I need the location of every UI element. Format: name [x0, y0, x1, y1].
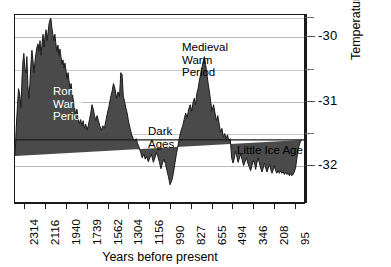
x-tick-label-208: 208 — [278, 226, 290, 246]
annotation-little-ice-age: Little Ice Age — [237, 144, 303, 157]
roman-warm-period-line: Roman — [53, 85, 90, 98]
little-ice-age-line: Little Ice Age — [237, 144, 303, 157]
dark-ages-line: Ages — [148, 138, 174, 151]
x-tick-346 — [253, 203, 254, 209]
x-tick-990 — [170, 203, 171, 209]
x-tick-1304 — [128, 203, 129, 209]
x-tick-label-1562: 1562 — [112, 219, 124, 245]
x-tick-label-990: 990 — [174, 226, 186, 246]
y-tick--31 — [305, 101, 315, 102]
medieval-warm-period-line: Period — [182, 66, 228, 79]
x-tick-208 — [274, 203, 275, 209]
x-tick-95 — [295, 203, 296, 209]
x-tick-label-1156: 1156 — [153, 220, 165, 245]
medieval-warm-period-line: Medieval — [182, 41, 228, 54]
x-tick-494 — [232, 203, 233, 209]
x-tick-1940 — [66, 203, 67, 209]
x-tick-label-2314: 2314 — [28, 219, 40, 245]
x-tick-label-346: 346 — [257, 226, 269, 246]
x-tick-827 — [191, 203, 192, 209]
y-tick--32 — [305, 165, 315, 166]
x-axis-title: Years before present — [0, 250, 320, 264]
dark-ages-line: Dark — [148, 125, 174, 138]
roman-warm-period-line: Warm — [53, 98, 90, 111]
y-tick-label--32: -32 — [318, 158, 337, 171]
y-tick--30 — [305, 36, 315, 37]
y-tick — [305, 133, 314, 134]
y-axis-title: Temperature C — [349, 0, 363, 60]
annotation-roman-warm-period: RomanWarmPeriod — [53, 85, 90, 123]
annotation-medieval-warm-period: MedievalWarmPeriod — [182, 41, 228, 79]
roman-warm-period-line: Period — [53, 110, 90, 123]
y-tick — [305, 69, 314, 70]
x-tick-label-827: 827 — [195, 226, 207, 246]
y-tick — [305, 17, 314, 18]
x-tick-1156 — [149, 203, 150, 209]
x-tick-2116 — [45, 203, 46, 209]
x-tick-label-1304: 1304 — [132, 219, 144, 245]
x-tick-label-1940: 1940 — [70, 219, 82, 245]
x-tick-label-95: 95 — [299, 232, 311, 245]
x-tick-655 — [212, 203, 213, 209]
x-tick-1739 — [87, 203, 88, 209]
x-tick-label-1739: 1739 — [91, 219, 103, 245]
x-tick-label-2116: 2116 — [49, 220, 61, 245]
annotation-dark-ages: DarkAges — [148, 125, 174, 150]
temperature-reconstruction-chart: RomanWarmPeriod MedievalWarmPeriod DarkA… — [0, 0, 391, 267]
x-tick-label-494: 494 — [236, 226, 248, 246]
plot-area: RomanWarmPeriod MedievalWarmPeriod DarkA… — [14, 14, 305, 203]
medieval-warm-period-line: Warm — [182, 54, 228, 67]
x-axis-tick-labels: 2314211619401739156213041156990827655494… — [14, 209, 305, 247]
x-tick-2314 — [24, 203, 25, 209]
x-axis-line — [14, 203, 305, 204]
y-axis-line — [305, 14, 307, 203]
y-tick-label--31: -31 — [318, 94, 337, 107]
x-tick-1562 — [108, 203, 109, 209]
y-tick-label--30: -30 — [318, 29, 337, 42]
x-tick-label-655: 655 — [216, 226, 228, 246]
